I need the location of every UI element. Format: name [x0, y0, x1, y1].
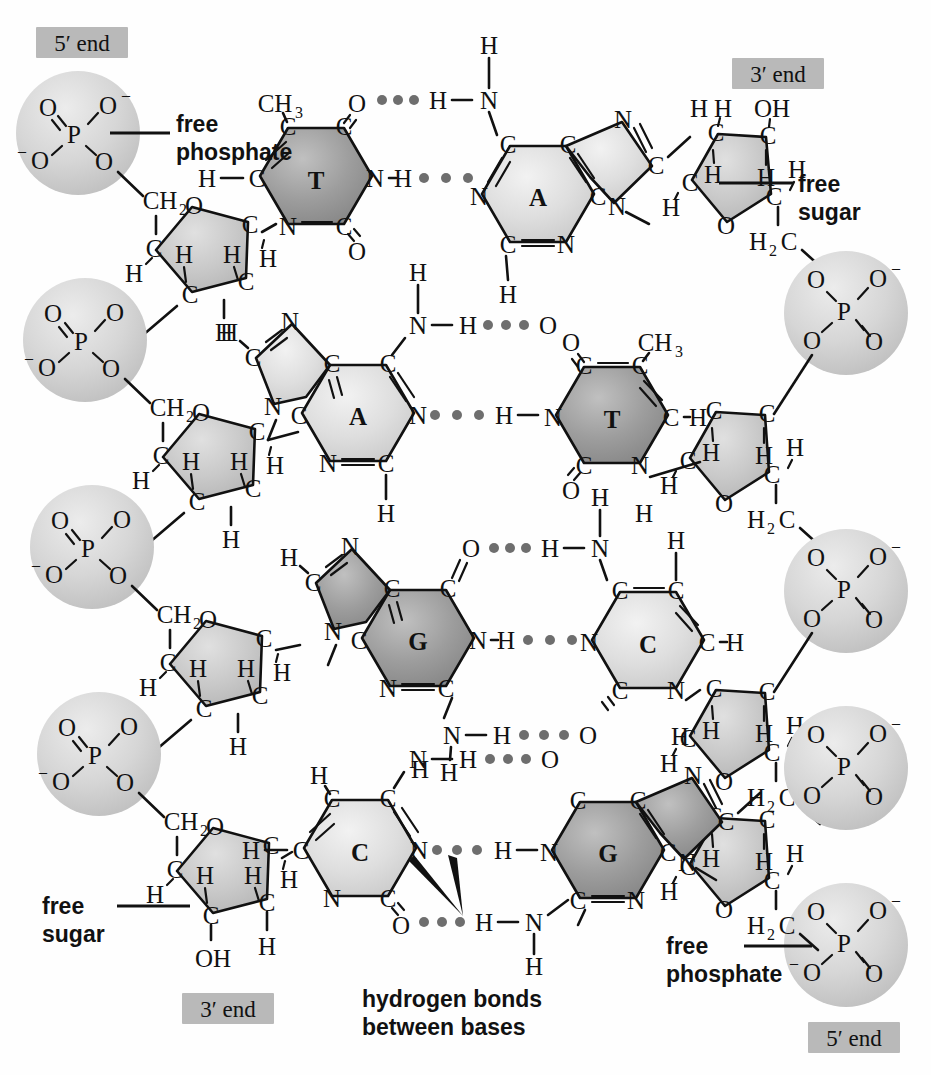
hydrogen-atom: H [755, 848, 773, 875]
end-label-bottom-right-text: 5′ end [826, 1026, 882, 1051]
base-letter-G: G [598, 840, 617, 867]
oxygen-atom: O [192, 399, 210, 426]
oxygen-atom: O [39, 94, 57, 121]
hydrogen-atom: H [541, 535, 559, 562]
carbon-atom: C [648, 152, 665, 179]
hydrogen-bonds-label-line1: hydrogen bonds [362, 986, 542, 1012]
carbon-atom: C [560, 131, 577, 158]
end-label-top-right: 3′ end [732, 58, 824, 89]
carbon-atom: C [590, 183, 607, 210]
free-sugar-label-line1: free [798, 171, 840, 197]
nitrogen-atom: N [319, 450, 337, 477]
nitrogen-atom: N [608, 193, 626, 220]
carbon-atom: C [718, 808, 735, 835]
oxygen-atom: O [803, 605, 821, 632]
methylene-label: H [749, 228, 767, 255]
carbon-atom: C [182, 281, 199, 308]
oxygen-atom: O [803, 782, 821, 809]
methyl-label: CH [258, 90, 293, 117]
oxygen-atom: O [562, 477, 580, 504]
charge-minus: – [891, 259, 901, 276]
free-sugar-bottom-label-line2: sugar [42, 921, 105, 947]
hydrogen-atom: H [280, 544, 298, 571]
nitrogen-atom: N [480, 87, 498, 114]
hydrogen-atom: H [702, 845, 720, 872]
nitrogen-atom: N [409, 746, 427, 773]
phosphate-group-right-3: O O – O O P [784, 706, 908, 830]
nitrogen-atom: N [540, 839, 558, 866]
carbon-atom: C [781, 228, 798, 255]
sugar-ring-left-4-free: C O C C C H H H H OH H [146, 813, 298, 972]
dna-structure-diagram: 5′ end 3′ end 3′ end 5′ end O O – O – O … [0, 0, 931, 1075]
hydrogen-atom: H [635, 500, 653, 527]
hydrogen-atom: H [125, 260, 143, 287]
hydrogen-atom: H [662, 194, 680, 221]
hydrogen-atom: H [525, 953, 543, 980]
methylene-subscript: 2 [769, 242, 777, 259]
charge-minus: – [891, 714, 901, 731]
nitrogen-atom: N [323, 885, 341, 912]
carbon-atom: C [238, 268, 255, 295]
oxygen-atom: O [31, 147, 49, 174]
nitrogen-atom: N [409, 312, 427, 339]
hydrogen-atom: H [726, 629, 744, 656]
carbon-atom: C [167, 856, 184, 883]
oxygen-atom: O [199, 606, 217, 633]
base-letter-T: T [604, 406, 621, 433]
oxygen-atom: O [120, 713, 138, 740]
methylene-label: CH [143, 187, 178, 214]
base-thymine-pair2: C C C N C N T O O CH 3 H H [544, 329, 707, 527]
hydrogen-atom: H [786, 434, 804, 461]
carbon-atom: C [384, 575, 401, 602]
phosphorus-atom: P [837, 930, 851, 957]
hydroxyl-label: OH [754, 95, 790, 122]
phosphorus-atom: P [67, 121, 81, 148]
hydrogen-atom: H [459, 746, 477, 773]
charge-minus: – [891, 537, 901, 554]
carbon-atom: C [660, 839, 677, 866]
oxygen-atom: O [579, 722, 597, 749]
oxygen-atom: O [462, 535, 480, 562]
oxygen-atom: O [116, 769, 134, 796]
oxygen-atom: O [869, 265, 887, 292]
nitrogen-atom: N [409, 402, 427, 429]
carbon-atom: C [324, 350, 341, 377]
nitrogen-atom: N [264, 393, 282, 420]
carbon-atom: C [280, 113, 297, 140]
methyl-subscript: 3 [295, 104, 303, 121]
hydrogen-atom: H [242, 837, 260, 864]
carbon-atom: C [612, 677, 629, 704]
oxygen-atom: O [44, 300, 62, 327]
charge-minus: – [789, 954, 799, 971]
carbon-atom: C [263, 832, 280, 859]
hydrogen-atom: H [459, 312, 477, 339]
callout-free-sugar-bottom: free sugar [42, 893, 190, 947]
charge-minus: – [891, 891, 901, 908]
base-letter-A: A [529, 184, 547, 211]
hydroxyl-label: OH [195, 945, 231, 972]
carbon-atom: C [699, 629, 716, 656]
oxygen-atom: O [715, 896, 733, 923]
oxygen-atom: O [803, 327, 821, 354]
base-letter-C: C [639, 631, 657, 658]
hydrogen-atom: H [244, 862, 262, 889]
hydrogen-atom: H [222, 526, 240, 553]
oxygen-atom: O [562, 329, 580, 356]
nitrogen-atom: N [678, 849, 696, 876]
carbon-atom: C [380, 885, 397, 912]
hydrogen-atom: H [671, 723, 689, 750]
oxygen-atom: O [52, 768, 70, 795]
oxygen-atom: O [99, 92, 117, 119]
oxygen-atom: O [869, 720, 887, 747]
free-phosphate-bottom-label-line1: free [666, 933, 708, 959]
oxygen-atom: O [541, 746, 559, 773]
hydrogen-atom: H [440, 759, 458, 786]
carbon-atom: C [630, 787, 647, 814]
hydrogen-atom: H [229, 733, 247, 760]
hydrogen-atom: H [702, 439, 720, 466]
free-sugar-label-line2: sugar [798, 199, 861, 225]
hydrogen-atom: H [494, 837, 512, 864]
hydrogen-atom: H [667, 527, 685, 554]
hydrogen-atom: H [493, 722, 511, 749]
nitrogen-atom: N [324, 618, 342, 645]
